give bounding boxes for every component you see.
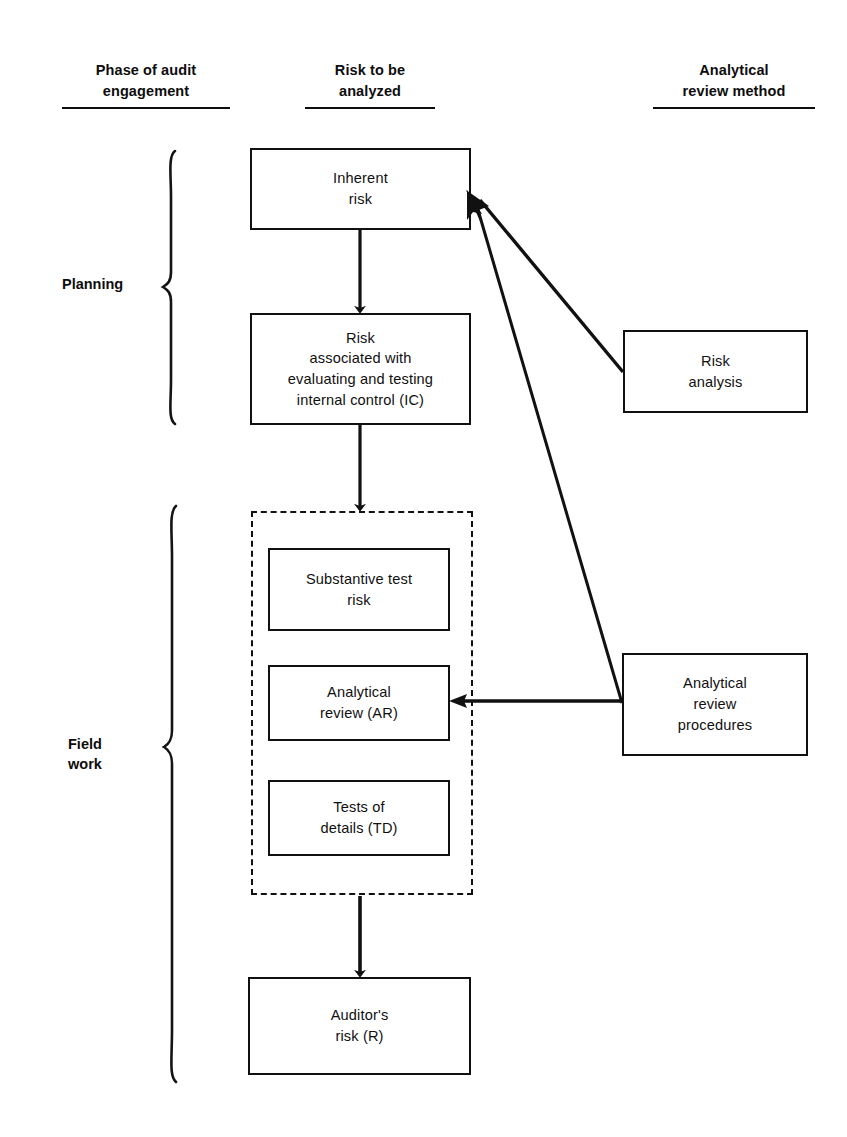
node-analytical-review-label: Analytical review (AR) <box>320 682 398 723</box>
node-substantive-test-risk-label: Substantive test risk <box>306 569 412 610</box>
node-inherent-risk[interactable]: Inherent risk <box>250 148 471 230</box>
brace-field-work <box>164 506 176 1082</box>
node-risk-analysis[interactable]: Risk analysis <box>623 330 808 413</box>
column-header-phase: Phase of audit engagement <box>62 60 230 109</box>
node-risk-analysis-label: Risk analysis <box>689 351 743 392</box>
diagram-canvas: Phase of audit engagement Risk to be ana… <box>0 0 847 1137</box>
phase-label-planning: Planning <box>62 275 182 295</box>
node-ic-risk-label: Risk associated with evaluating and test… <box>288 328 433 411</box>
node-auditors-risk[interactable]: Auditor's risk (R) <box>248 977 471 1075</box>
node-tests-of-details-label: Tests of details (TD) <box>320 797 397 838</box>
phase-label-field-work: Field work <box>68 735 188 774</box>
node-tests-of-details[interactable]: Tests of details (TD) <box>268 780 450 856</box>
connector-arp-to-inherent <box>467 190 622 703</box>
node-ic-risk[interactable]: Risk associated with evaluating and test… <box>250 313 471 425</box>
node-auditors-risk-label: Auditor's risk (R) <box>331 1005 389 1046</box>
node-analytical-review[interactable]: Analytical review (AR) <box>268 665 450 741</box>
node-analytical-review-procedures-label: Analytical review procedures <box>678 673 753 735</box>
node-inherent-risk-label: Inherent risk <box>333 168 388 209</box>
connector-risk-analysis-to-inherent <box>466 190 623 372</box>
column-header-risk: Risk to be analyzed <box>305 60 435 109</box>
node-analytical-review-procedures[interactable]: Analytical review procedures <box>622 653 808 756</box>
node-substantive-test-risk[interactable]: Substantive test risk <box>268 548 450 631</box>
column-header-method: Analytical review method <box>653 60 815 109</box>
connector-arp-to-analytical-review <box>449 694 622 708</box>
